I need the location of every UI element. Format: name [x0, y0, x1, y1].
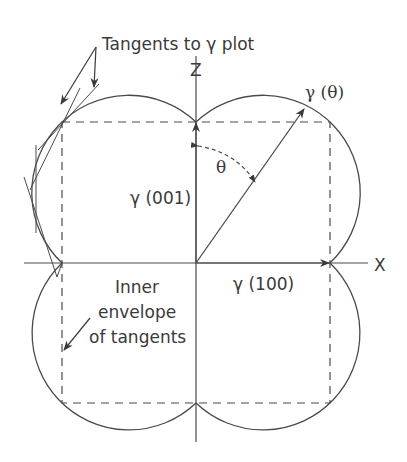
gamma-plot-diagram: Tangents to γ plot Z X γ (θ) θ γ (001) γ… [0, 0, 407, 462]
inner-envelope-label-line2: envelope [98, 302, 176, 322]
gamma-theta-label: γ (θ) [305, 82, 344, 102]
tangent-pointer-arrow-1 [61, 47, 96, 104]
theta-label: θ [216, 157, 226, 177]
inner-envelope-label-line3: of tangents [89, 327, 186, 347]
tangents-label: Tangents to γ plot [101, 34, 255, 54]
gamma-theta-arrow [196, 109, 304, 263]
tangent-pointer-arrow-2 [94, 47, 96, 87]
gamma-100-label: γ (100) [233, 274, 294, 294]
gamma-001-label: γ (001) [130, 188, 191, 208]
inner-envelope-label-line1: Inner [115, 277, 159, 297]
inner-envelope-pointer-arrow [64, 318, 90, 350]
theta-arc [198, 146, 255, 182]
z-axis-label: Z [190, 60, 202, 80]
x-axis-label: X [374, 255, 386, 275]
